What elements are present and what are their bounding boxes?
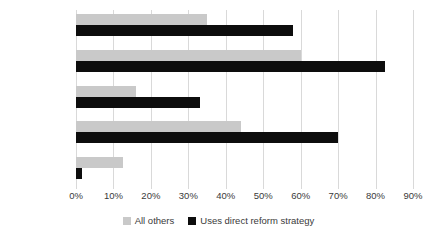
legend-item-uses-direct-reform-strategy[interactable]: Uses direct reform strategy — [188, 215, 314, 226]
gridline-90 — [413, 10, 414, 189]
x-tick-label-60: 60% — [291, 190, 310, 201]
bar-judicial-all-others — [76, 86, 136, 97]
bar-executive-uses-direct-reform-strategy — [76, 25, 293, 36]
bar-none-uses-direct-reform-strategy — [76, 168, 82, 179]
bar-executive-all-others — [76, 14, 207, 25]
x-tick-label-40: 40% — [216, 190, 235, 201]
bar-bureaucratic-uses-direct-reform-strategy — [76, 132, 338, 143]
legend-item-all-others[interactable]: All others — [123, 215, 175, 226]
bar-legislative-all-others — [76, 50, 301, 61]
x-tick-label-30: 30% — [179, 190, 198, 201]
legend-swatch-icon-uses-direct-reform-strategy — [188, 217, 196, 225]
x-tick-label-50: 50% — [254, 190, 273, 201]
x-tick-label-80: 80% — [366, 190, 385, 201]
bar-none-all-others — [76, 157, 123, 168]
x-tick-label-90: 90% — [403, 190, 422, 201]
x-tick-label-70: 70% — [329, 190, 348, 201]
bar-bureaucratic-all-others — [76, 121, 241, 132]
bar-judicial-uses-direct-reform-strategy — [76, 97, 200, 108]
category-group-legislative: legislative — [76, 46, 413, 82]
category-group-executive: executive — [76, 10, 413, 46]
category-group-bureaucratic: bureaucratic — [76, 117, 413, 153]
x-axis-tick-labels: 0%10%20%30%40%50%60%70%80%90% — [76, 190, 413, 206]
x-tick-label-10: 10% — [104, 190, 123, 201]
legend-label-all-others: All others — [135, 215, 175, 226]
plot-area: executivelegislativejudicialbureaucratic… — [76, 10, 413, 189]
x-tick-label-20: 20% — [141, 190, 160, 201]
chart-legend: All othersUses direct reform strategy — [0, 215, 437, 226]
bar-chart: executivelegislativejudicialbureaucratic… — [0, 0, 437, 246]
legend-swatch-icon-all-others — [123, 217, 131, 225]
legend-label-uses-direct-reform-strategy: Uses direct reform strategy — [200, 215, 314, 226]
x-tick-label-0: 0% — [69, 190, 83, 201]
category-group-judicial: judicial — [76, 82, 413, 118]
category-group-none: none — [76, 153, 413, 189]
bar-legislative-uses-direct-reform-strategy — [76, 61, 385, 72]
